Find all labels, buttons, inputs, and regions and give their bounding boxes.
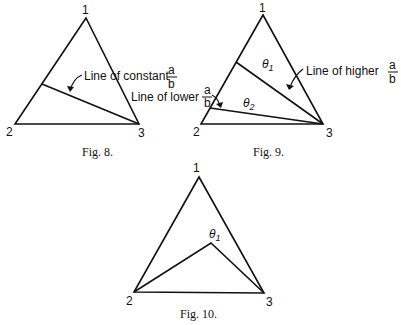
vertex-3-label: 3 <box>266 295 273 309</box>
figures-canvas: 1 2 3 Line of constant a b Fig. 8. 1 2 3… <box>0 0 401 325</box>
vertex-1-label: 1 <box>259 1 266 15</box>
vertex-3-label: 3 <box>326 126 333 140</box>
theta-1-label: θ1 <box>262 57 274 73</box>
figure-10: 1 2 3 θ1 Fig. 10. <box>126 161 273 321</box>
lower-fraction-denominator: b <box>204 96 211 110</box>
higher-fraction-numerator: a <box>389 58 396 72</box>
line-of-lower-label: Line of lower <box>131 90 199 104</box>
inner-boundary-line <box>134 243 264 293</box>
vertex-2-label: 2 <box>193 125 200 139</box>
fraction-denominator: b <box>168 77 175 91</box>
higher-fraction-denominator: b <box>389 72 396 86</box>
figure-caption: Fig. 8. <box>82 145 113 159</box>
vertex-1-label: 1 <box>82 3 89 17</box>
theta-1-label: θ1 <box>209 227 221 243</box>
constant-ratio-line <box>42 84 139 124</box>
figure-8: 1 2 3 Line of constant a b Fig. 8. <box>6 3 177 159</box>
vertex-2-label: 2 <box>6 125 13 139</box>
lower-ratio-line <box>210 108 323 124</box>
figure-caption: Fig. 10. <box>180 307 217 321</box>
theta-2-label: θ2 <box>243 96 255 112</box>
vertex-1-label: 1 <box>193 161 200 175</box>
vertex-2-label: 2 <box>126 294 133 308</box>
figure-caption: Fig. 9. <box>253 145 284 159</box>
fraction-numerator: a <box>168 63 175 77</box>
arrowhead-icon <box>286 84 294 90</box>
vertex-3-label: 3 <box>138 126 145 140</box>
arrowhead-icon <box>67 86 74 92</box>
line-of-constant-label: Line of constant <box>84 69 169 83</box>
lower-fraction-numerator: a <box>204 83 211 97</box>
line-of-higher-label: Line of higher <box>306 64 379 78</box>
